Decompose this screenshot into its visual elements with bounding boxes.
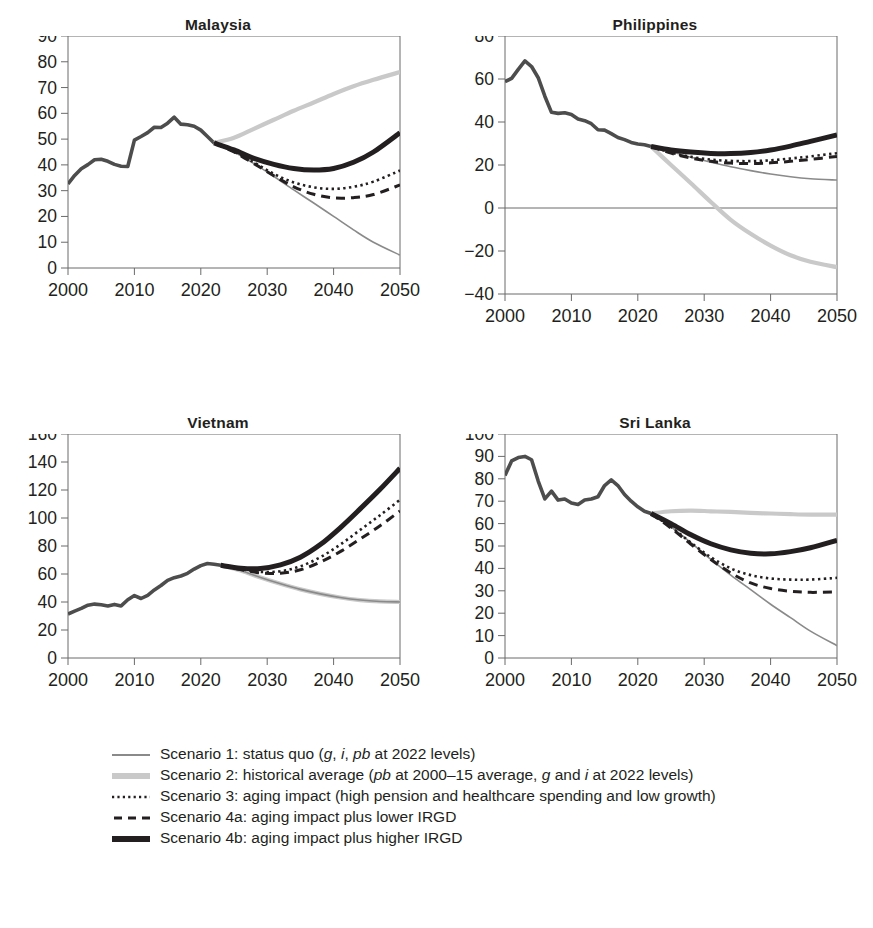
chart-panel-vietnam: Vietnam 02040608010012014016020002010202…	[0, 412, 436, 692]
x-tick-label: 2020	[181, 280, 221, 300]
series-group	[68, 72, 400, 255]
y-tick-label: 50	[475, 536, 495, 556]
y-tick-label: 60	[475, 514, 495, 534]
y-tick-label: 0	[47, 648, 57, 668]
legend-item-scenario3[interactable]: Scenario 3: aging impact (high pension a…	[112, 786, 752, 806]
y-tick-label: 90	[475, 446, 495, 466]
chart-title-philippines: Philippines	[437, 14, 873, 36]
x-tick-label: 2000	[48, 670, 88, 690]
series-line-scenario4b-malaysia	[214, 133, 400, 170]
y-tick-label: −40	[464, 284, 494, 304]
x-tick-label: 2000	[485, 670, 525, 690]
chart-svg-sri_lanka: 0102030405060708090100200020102020203020…	[437, 434, 873, 692]
x-tick-label: 2040	[751, 670, 791, 690]
legend-line-sample-scenario1	[112, 744, 156, 764]
series-line-scenario3-vietnam	[221, 500, 400, 572]
x-tick-label: 2030	[247, 280, 287, 300]
series-line-scenario4b-vietnam	[221, 468, 400, 568]
y-tick-label: 40	[38, 592, 58, 612]
series-group	[68, 468, 400, 614]
y-tick-label: 0	[484, 648, 494, 668]
history-line-malaysia	[68, 117, 214, 184]
chart-panel-philippines: Philippines −40−200204060802000201020202…	[437, 14, 873, 328]
legend-item-scenario4b[interactable]: Scenario 4b: aging impact plus higher IR…	[112, 828, 752, 848]
y-tick-label: 20	[475, 603, 495, 623]
history-line-sri_lanka	[505, 456, 651, 513]
chart-panel-sri-lanka: Sri Lanka 010203040506070809010020002010…	[437, 412, 873, 692]
legend-line-sample-scenario3	[112, 786, 156, 806]
x-tick-label: 2010	[114, 280, 154, 300]
x-tick-label: 2020	[618, 306, 658, 326]
plot-area-sri-lanka: 0102030405060708090100200020102020203020…	[437, 434, 873, 692]
x-tick-label: 2040	[314, 670, 354, 690]
series-line-scenario2-sri_lanka	[651, 511, 837, 515]
chart-title-vietnam: Vietnam	[0, 412, 436, 434]
x-tick-label: 2010	[551, 670, 591, 690]
x-tick-label: 2010	[114, 670, 154, 690]
legend-label-scenario2: Scenario 2: historical average (pb at 20…	[160, 765, 752, 784]
legend-line-sample-scenario4a	[112, 807, 156, 827]
x-tick-label: 2000	[485, 306, 525, 326]
y-tick-label: 40	[475, 112, 495, 132]
y-tick-label: 50	[38, 129, 58, 149]
y-tick-label: 80	[475, 36, 495, 46]
x-tick-label: 2030	[247, 670, 287, 690]
y-tick-label: 100	[28, 508, 57, 528]
plot-area-philippines: −40−20020406080200020102020203020402050	[437, 36, 873, 328]
x-tick-label: 2050	[380, 670, 420, 690]
x-tick-label: 2020	[618, 670, 658, 690]
y-tick-label: 80	[475, 469, 495, 489]
y-tick-label: 80	[38, 536, 58, 556]
plot-area-vietnam: 0204060801001201401602000201020202030204…	[0, 434, 436, 692]
y-tick-label: 70	[38, 78, 58, 98]
history-line-philippines	[505, 61, 651, 147]
y-tick-label: 60	[38, 103, 58, 123]
chart-svg-malaysia: 0102030405060708090200020102020203020402…	[0, 36, 436, 302]
legend-label-scenario4a: Scenario 4a: aging impact plus lower IRG…	[160, 807, 752, 826]
y-tick-label: 30	[38, 181, 58, 201]
x-tick-label: 2040	[751, 306, 791, 326]
chart-panel-malaysia: Malaysia 0102030405060708090200020102020…	[0, 14, 436, 302]
legend-line-sample-scenario4b	[112, 828, 156, 848]
y-tick-label: 40	[475, 558, 495, 578]
legend-item-scenario2[interactable]: Scenario 2: historical average (pb at 20…	[112, 765, 752, 785]
y-tick-label: 60	[38, 564, 58, 584]
y-tick-label: 0	[484, 198, 494, 218]
legend-item-scenario4a[interactable]: Scenario 4a: aging impact plus lower IRG…	[112, 807, 752, 827]
chart-title-malaysia: Malaysia	[0, 14, 436, 36]
series-line-scenario4b-philippines	[651, 135, 837, 154]
x-tick-label: 2050	[817, 670, 857, 690]
series-line-scenario1-malaysia	[214, 143, 400, 255]
legend-line-sample-scenario2	[112, 765, 156, 785]
y-tick-label: 0	[47, 258, 57, 278]
y-tick-label: 40	[38, 155, 58, 175]
history-line-vietnam	[68, 564, 221, 615]
x-tick-label: 2050	[380, 280, 420, 300]
x-tick-label: 2030	[684, 670, 724, 690]
y-tick-label: 160	[28, 434, 57, 444]
y-tick-label: 100	[465, 434, 494, 444]
x-tick-label: 2020	[181, 670, 221, 690]
figure-root: Malaysia 0102030405060708090200020102020…	[0, 0, 873, 928]
x-tick-label: 2040	[314, 280, 354, 300]
y-tick-label: 10	[38, 232, 58, 252]
y-tick-label: 30	[475, 581, 495, 601]
y-tick-label: 20	[38, 620, 58, 640]
chart-legend: Scenario 1: status quo (g, i, pb at 2022…	[112, 744, 752, 849]
y-tick-label: 70	[475, 491, 495, 511]
chart-svg-philippines: −40−20020406080200020102020203020402050	[437, 36, 873, 328]
y-tick-label: −20	[464, 241, 494, 261]
x-tick-label: 2050	[817, 306, 857, 326]
series-group	[505, 61, 837, 267]
legend-label-scenario1: Scenario 1: status quo (g, i, pb at 2022…	[160, 744, 752, 763]
legend-item-scenario1[interactable]: Scenario 1: status quo (g, i, pb at 2022…	[112, 744, 752, 764]
y-tick-label: 80	[38, 52, 58, 72]
y-tick-label: 90	[38, 36, 58, 46]
plot-area-malaysia: 0102030405060708090200020102020203020402…	[0, 36, 436, 302]
series-line-scenario4a-vietnam	[221, 511, 400, 574]
x-tick-label: 2030	[684, 306, 724, 326]
series-line-scenario2-malaysia	[214, 72, 400, 143]
legend-label-scenario3: Scenario 3: aging impact (high pension a…	[160, 786, 752, 805]
y-tick-label: 20	[475, 155, 495, 175]
chart-title-sri-lanka: Sri Lanka	[437, 412, 873, 434]
